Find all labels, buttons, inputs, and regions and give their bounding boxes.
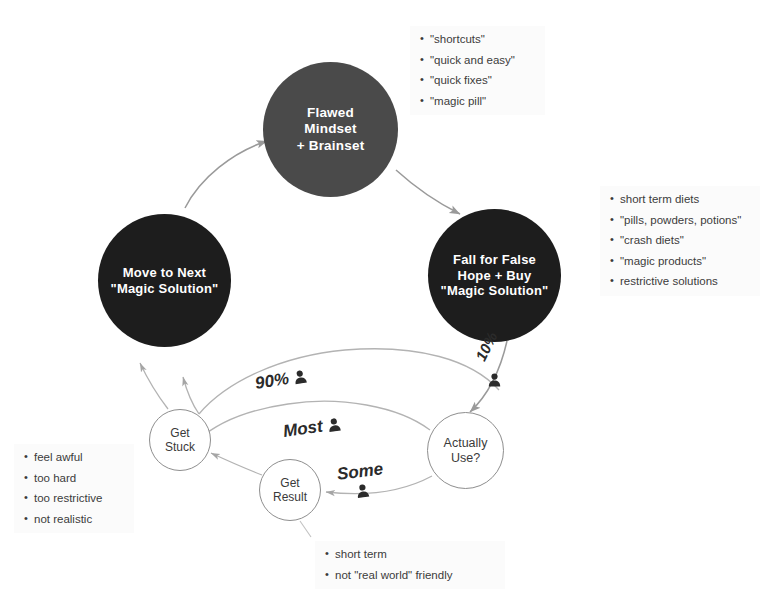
person-icon bbox=[355, 483, 370, 498]
flow-label-most-text: Most bbox=[282, 417, 324, 442]
note-bullet-item: not "real world" friendly bbox=[325, 570, 495, 582]
note-magic-solution-products: short term diets"pills, powders, potions… bbox=[600, 186, 760, 296]
node-flawed-mindset[interactable]: FlawedMindset+ Brainset bbox=[263, 62, 398, 197]
arrow-mindset-to-fall bbox=[396, 170, 460, 214]
note-bullet-item: too hard bbox=[24, 473, 124, 485]
node-move-to-next-label: Move to Next"Magic Solution" bbox=[103, 265, 227, 297]
note-mindset-keywords-list: "shortcuts""quick and easy""quick fixes"… bbox=[420, 34, 535, 107]
arrow-90-to-move bbox=[183, 377, 199, 414]
note-get-result-caveats-list: short termnot "real world" friendly bbox=[325, 549, 495, 581]
note-bullet-item: short term diets bbox=[610, 194, 750, 206]
note-mindset-keywords: "shortcuts""quick and easy""quick fixes"… bbox=[410, 26, 545, 115]
node-actually-use[interactable]: ActuallyUse? bbox=[427, 412, 504, 489]
node-fall-for-false-hope[interactable]: Fall for FalseHope + Buy"Magic Solution" bbox=[428, 209, 561, 342]
note-bullet-item: feel awful bbox=[24, 452, 124, 464]
flow-label-some-text: Some bbox=[336, 459, 384, 484]
arc-90-outer bbox=[199, 349, 499, 414]
node-fall-for-false-hope-label: Fall for FalseHope + Buy"Magic Solution" bbox=[433, 252, 557, 300]
node-actually-use-label: ActuallyUse? bbox=[444, 436, 488, 466]
note-magic-solution-products-list: short term diets"pills, powders, potions… bbox=[610, 194, 750, 288]
note-get-stuck-reasons-list: feel awfultoo hardtoo restrictivenot rea… bbox=[24, 452, 124, 525]
note-bullet-item: "crash diets" bbox=[610, 235, 750, 247]
note-get-result-caveats: short termnot "real world" friendly bbox=[315, 541, 505, 589]
note-bullet-item: "magic products" bbox=[610, 256, 750, 268]
arrow-get-result-to-get-stuck bbox=[211, 453, 262, 475]
note-bullet-item: restrictive solutions bbox=[610, 276, 750, 288]
note-bullet-item: not realistic bbox=[24, 514, 124, 526]
person-icon bbox=[488, 373, 501, 387]
diagram-canvas: FlawedMindset+ Brainset Fall for FalseHo… bbox=[0, 0, 772, 610]
person-icon bbox=[293, 369, 308, 385]
note-bullet-item: short term bbox=[325, 549, 495, 561]
note-bullet-item: too restrictive bbox=[24, 493, 124, 505]
arrow-move-to-mindset bbox=[185, 141, 267, 208]
flow-label-90-percent: 90% bbox=[254, 366, 309, 394]
note-bullet-item: "quick fixes" bbox=[420, 75, 535, 87]
note-get-stuck-reasons: feel awfultoo hardtoo restrictivenot rea… bbox=[14, 444, 134, 533]
arrow-get-stuck-to-move bbox=[140, 363, 168, 409]
flow-label-most: Most bbox=[282, 414, 342, 442]
node-move-to-next[interactable]: Move to Next"Magic Solution" bbox=[98, 214, 231, 347]
node-flawed-mindset-label: FlawedMindset+ Brainset bbox=[289, 105, 373, 154]
note-bullet-item: "pills, powders, potions" bbox=[610, 215, 750, 227]
note-bullet-item: "magic pill" bbox=[420, 96, 535, 108]
note-bullet-item: "quick and easy" bbox=[420, 55, 535, 67]
flow-label-90-percent-text: 90% bbox=[254, 369, 291, 394]
node-get-result-label: GetResult bbox=[273, 476, 307, 505]
node-get-stuck-label: GetStuck bbox=[165, 426, 195, 455]
note-bullet-item: "shortcuts" bbox=[420, 34, 535, 46]
flow-label-10-percent: 10% bbox=[472, 356, 502, 387]
flow-label-some: Some bbox=[336, 459, 386, 500]
node-get-result[interactable]: GetResult bbox=[259, 459, 321, 521]
person-icon bbox=[327, 417, 342, 433]
node-get-stuck[interactable]: GetStuck bbox=[149, 409, 211, 471]
connector-get-result-note bbox=[300, 521, 311, 537]
